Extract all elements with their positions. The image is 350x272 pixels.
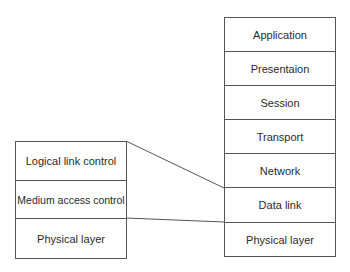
layer-logical-link-control: Logical link control	[16, 142, 126, 181]
ieee-802-stack: Logical link control Medium access contr…	[15, 141, 127, 259]
layer-presentation: Presentaion	[225, 52, 335, 86]
layer-application: Application	[225, 18, 335, 52]
layer-network: Network	[225, 154, 335, 188]
layer-transport: Transport	[225, 120, 335, 154]
connector-physical-to-physical	[126, 218, 224, 222]
connector-llc-to-datalink	[126, 141, 224, 188]
layer-session: Session	[225, 86, 335, 120]
layer-data-link: Data link	[225, 188, 335, 222]
osi-model-stack: Application Presentaion Session Transpor…	[224, 17, 336, 257]
layer-physical-osi: Physical layer	[225, 223, 335, 257]
layer-physical-ieee: Physical layer	[16, 219, 126, 258]
layer-medium-access-control: Medium access control	[16, 181, 126, 220]
